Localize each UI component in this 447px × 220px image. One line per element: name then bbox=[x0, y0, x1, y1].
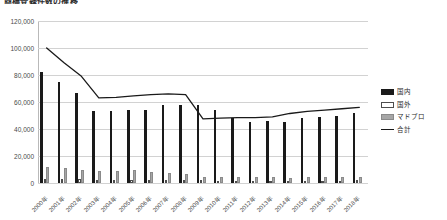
y-tick-label: 120,000 bbox=[0, 18, 34, 25]
x-tick-label: 2016年 bbox=[307, 194, 327, 214]
legend-item-foreign[interactable]: 国外 bbox=[381, 101, 425, 109]
x-tick-label: 2005年 bbox=[116, 194, 136, 214]
x-tick-label: 2003年 bbox=[81, 194, 101, 214]
legend-item-total[interactable]: 合計 bbox=[381, 126, 425, 134]
chart-container: 商標登録件数の推移 020,00040,00060,00080,000100,0… bbox=[0, 0, 447, 220]
y-tick-label: 0 bbox=[0, 180, 34, 187]
legend-swatch-domestic bbox=[381, 89, 394, 95]
legend-swatch-madopro bbox=[381, 114, 394, 120]
x-tick-label: 2004年 bbox=[98, 194, 118, 214]
x-tick-label: 2009年 bbox=[185, 194, 205, 214]
chart-title: 商標登録件数の推移 bbox=[4, 0, 78, 4]
x-axis-labels: 2000年2001年2002年2003年2004年2005年2006年2007年… bbox=[38, 183, 368, 220]
x-tick-label: 2013年 bbox=[255, 194, 275, 214]
x-tick-label: 2006年 bbox=[133, 194, 153, 214]
x-tick-label: 2000年 bbox=[29, 194, 49, 214]
y-tick-label: 100,000 bbox=[0, 45, 34, 52]
x-tick-label: 2008年 bbox=[168, 194, 188, 214]
x-tick-label: 2015年 bbox=[289, 194, 309, 214]
legend-item-domestic[interactable]: 国内 bbox=[381, 88, 425, 96]
y-tick-label: 40,000 bbox=[0, 126, 34, 133]
chart-legend: 国内 国外 マドプロ 合計 bbox=[381, 88, 425, 134]
legend-label-total: 合計 bbox=[397, 126, 411, 134]
x-tick-label: 2001年 bbox=[46, 194, 66, 214]
y-tick-label: 80,000 bbox=[0, 72, 34, 79]
y-tick-label: 60,000 bbox=[0, 99, 34, 106]
legend-label-madopro: マドプロ bbox=[397, 113, 425, 121]
total-line-series bbox=[38, 21, 368, 183]
legend-label-foreign: 国外 bbox=[397, 101, 411, 109]
x-tick-label: 2018年 bbox=[342, 194, 362, 214]
legend-swatch-total bbox=[381, 129, 394, 130]
x-tick-label: 2010年 bbox=[203, 194, 223, 214]
x-tick-label: 2012年 bbox=[237, 194, 257, 214]
y-axis-labels: 020,00040,00060,00080,000100,000120,000 bbox=[0, 21, 34, 183]
x-tick-label: 2011年 bbox=[220, 194, 240, 214]
legend-item-madopro[interactable]: マドプロ bbox=[381, 113, 425, 121]
x-tick-label: 2017年 bbox=[324, 194, 344, 214]
legend-swatch-foreign bbox=[381, 102, 394, 108]
legend-label-domestic: 国内 bbox=[397, 88, 411, 96]
x-tick-label: 2002年 bbox=[64, 194, 84, 214]
plot-area bbox=[38, 21, 368, 183]
x-tick-label: 2014年 bbox=[272, 194, 292, 214]
y-tick-label: 20,000 bbox=[0, 153, 34, 160]
x-tick-label: 2007年 bbox=[150, 194, 170, 214]
